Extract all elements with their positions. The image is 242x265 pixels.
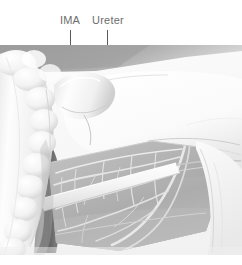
label-ureter: Ureter xyxy=(92,14,124,26)
figure-container: IMA Ureter xyxy=(0,0,242,265)
illustration-svg xyxy=(0,45,242,255)
haustrum-4 xyxy=(30,109,58,133)
lower-fade xyxy=(0,247,242,255)
label-ima: IMA xyxy=(60,14,80,26)
haustrum-3 xyxy=(25,87,55,111)
haustrum-highlight-1 xyxy=(22,50,46,68)
haustrum-highlight-2 xyxy=(39,64,61,82)
haustrum-7 xyxy=(16,175,44,199)
anatomical-illustration xyxy=(0,45,242,255)
